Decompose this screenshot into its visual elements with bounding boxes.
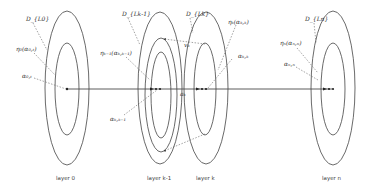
layer-n-point-a <box>328 88 330 90</box>
layer-k-point-a <box>201 88 203 90</box>
layer-n-group: D_{Ln} ηₙ(αₙ,ₙ) αₙ,ₙ layer n <box>280 11 355 182</box>
layer-k-point-b <box>205 88 207 90</box>
layer-0-point <box>66 88 68 90</box>
layer-n-eta-label: ηₙ(αₙ,ₙ) <box>280 39 302 47</box>
layer-diagram: D_{L0} η₀(α₀,ₜ) α₀,ₜ layer 0 D_{Lk-1} ηₖ… <box>0 0 368 190</box>
layer-n-domain-label: D_{Ln} <box>304 15 328 23</box>
vk-label: vₖ <box>184 41 190 48</box>
layer-k-domain-label: D_{Lk} <box>185 10 209 18</box>
layer-k-1-point-b <box>159 88 161 90</box>
layer-0-alpha-label: α₀,ₜ <box>22 72 32 79</box>
layer-0-group: D_{L0} η₀(α₀,ₜ) α₀,ₜ layer 0 <box>16 11 89 182</box>
layer-k-minus-1-group: D_{Lk-1} ηₖ₋₁(αₖ,ₖ₋₁) αₖ,ₖ₋₁ layer k-1 <box>100 10 182 182</box>
layer-k-1-domain-label: D_{Lk-1} <box>121 10 151 18</box>
ak-label: aₖ <box>180 90 187 97</box>
layer-n-point-b <box>332 88 334 90</box>
layer-k-1-middle-ring <box>145 38 177 152</box>
layer-k-alpha-label: αₖ,ₖ <box>238 52 249 59</box>
layer-0-eta-label: η₀(α₀,ₜ) <box>16 45 37 53</box>
layer-n-alpha-label: αₙ,ₙ <box>284 60 295 67</box>
layer-k-caption: layer k <box>196 175 216 182</box>
layer-0-domain-label: D_{L0} <box>25 15 49 23</box>
layer-0-caption: layer 0 <box>56 175 76 182</box>
layer-k-1-inner-ring <box>151 52 171 138</box>
layer-k-eta-label: ηₖ(αₖ,ₖ) <box>228 18 249 26</box>
layer-k-1-eta-label: ηₖ₋₁(αₖ,ₖ₋₁) <box>100 49 133 57</box>
layer-k-1-alpha-label: αₖ,ₖ₋₁ <box>110 115 126 122</box>
layer-k-1-point-a <box>155 88 157 90</box>
layer-k-1-caption: layer k-1 <box>147 175 171 182</box>
layer-n-caption: layer n <box>322 175 342 182</box>
